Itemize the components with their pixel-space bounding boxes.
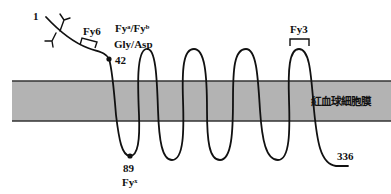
membrane-label: 紅血球細胞膜 xyxy=(311,95,372,107)
n-terminus-label: 1 xyxy=(33,10,39,22)
gly-asp-label: Gly/Asp xyxy=(114,38,153,50)
c-terminus-label: 336 xyxy=(337,150,354,162)
duffy-protein-topology-diagram: 1 Fy6 Fyᵃ/Fyᵇ Gly/Asp 42 Fy3 紅血球細胞膜 89 F… xyxy=(0,0,391,194)
fy3-label: Fy3 xyxy=(290,23,308,35)
residue-42-label: 42 xyxy=(115,54,127,66)
fyx-label: Fyˣ xyxy=(122,176,138,188)
residue-42-dot-icon xyxy=(106,56,111,61)
residue-89-label: 89 xyxy=(123,162,135,174)
fy6-label: Fy6 xyxy=(83,25,101,37)
antigen-fya-fyb-label: Fyᵃ/Fyᵇ xyxy=(115,22,150,34)
residue-89-dot-icon xyxy=(127,153,132,158)
fy3-bracket-icon xyxy=(290,39,309,46)
